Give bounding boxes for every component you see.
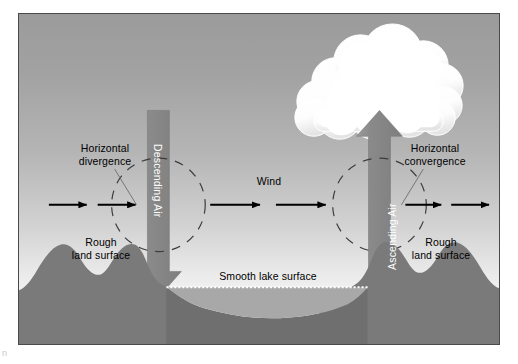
label-horizontal-divergence: Horizontal divergence	[57, 142, 153, 167]
label-rough-land-surface-right: Rough land surface	[389, 236, 493, 261]
label-smooth-lake-surface: Smooth lake surface	[201, 270, 335, 283]
label-wind: Wind	[236, 175, 302, 188]
figure-frame: Horizontal divergence Horizontal converg…	[18, 13, 500, 345]
label-descending-air: Descending Air	[152, 144, 164, 217]
label-horizontal-convergence: Horizontal convergence	[387, 142, 483, 167]
leader-line-divergence	[115, 169, 137, 205]
label-rough-land-surface-left: Rough land surface	[49, 236, 153, 261]
diagram-canvas: Horizontal divergence Horizontal converg…	[0, 0, 518, 364]
label-ascending-air: Ascending Air	[386, 203, 398, 270]
corner-mark: n	[2, 348, 7, 358]
leader-line-convergence	[401, 169, 423, 205]
